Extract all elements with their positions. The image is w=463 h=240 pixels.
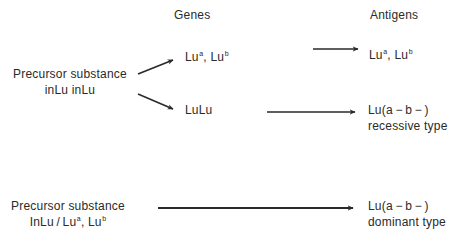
arrow-precursor-to-lua-lub-icon [138,60,173,74]
pathway-arrows [0,0,463,240]
arrow-precursor-to-lulu-icon [138,94,173,109]
